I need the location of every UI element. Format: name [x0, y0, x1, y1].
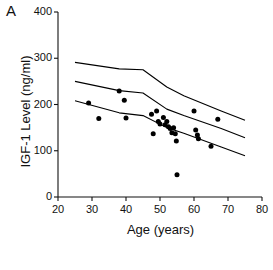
data-point — [158, 121, 163, 126]
data-point — [96, 116, 101, 121]
x-axis-tick-marks — [58, 197, 262, 201]
data-point — [196, 136, 201, 141]
y-tick-label: 0 — [8, 190, 52, 202]
y-tick-label: 300 — [8, 51, 52, 63]
data-point — [174, 139, 179, 144]
plot-area — [0, 0, 273, 270]
x-tick-label: 80 — [242, 203, 273, 215]
igf1-age-scatter-figure: A IGF-1 Level (ng/ml) Age (years) 010020… — [0, 0, 273, 270]
y-tick-label: 100 — [8, 144, 52, 156]
data-point — [154, 108, 159, 113]
middle-reference-curve — [75, 81, 245, 137]
data-point — [192, 108, 197, 113]
reference-curves — [75, 62, 245, 155]
y-tick-label: 200 — [8, 98, 52, 110]
data-point — [175, 172, 180, 177]
data-point — [193, 127, 198, 132]
upper-reference-curve — [75, 62, 245, 120]
data-point — [122, 98, 127, 103]
data-point — [209, 144, 214, 149]
data-point — [164, 119, 169, 124]
y-tick-label: 400 — [8, 5, 52, 17]
data-point — [215, 117, 220, 122]
data-point — [117, 89, 122, 94]
data-point — [151, 131, 156, 136]
data-point — [149, 112, 154, 117]
data-point — [161, 115, 166, 120]
data-point — [173, 131, 178, 136]
data-point — [86, 101, 91, 106]
y-axis-tick-marks — [54, 12, 58, 197]
data-point — [171, 125, 176, 130]
data-point — [124, 115, 129, 120]
